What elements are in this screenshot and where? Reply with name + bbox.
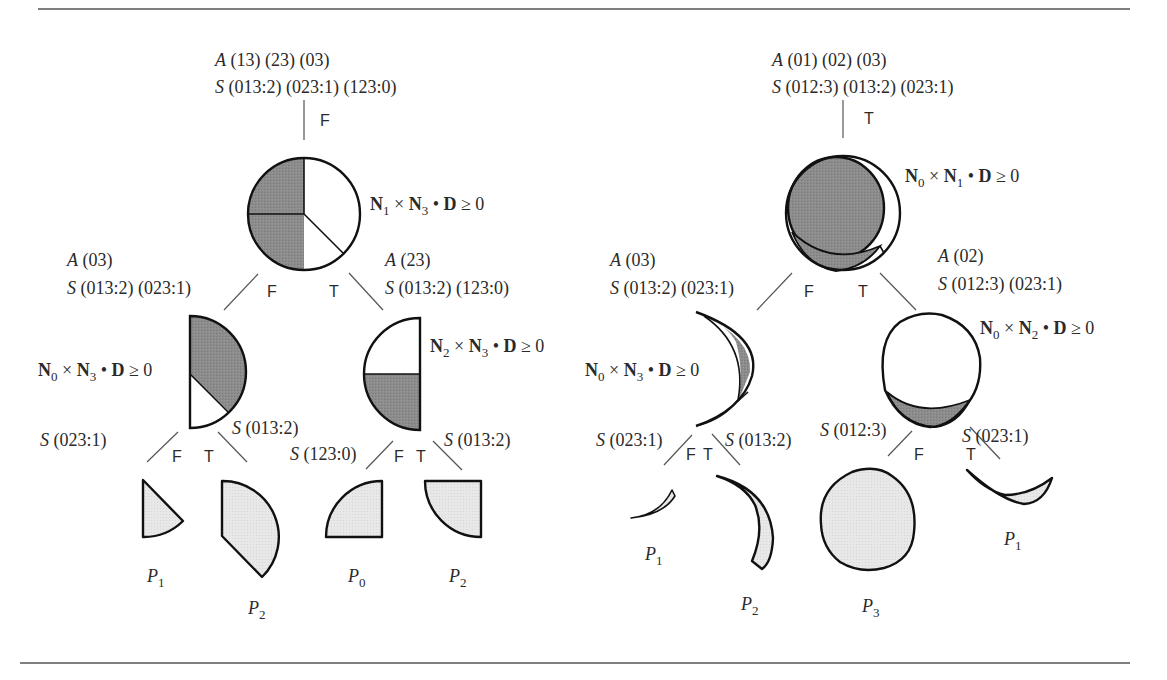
right-leaf-p1b-shape xyxy=(967,470,1052,504)
right-leaf-p3-label: P3 xyxy=(861,596,880,620)
left-node2l-t-label: T xyxy=(204,448,214,465)
left-node2r-f-s: S (123:0) xyxy=(290,444,357,465)
left-node2r-f-edge xyxy=(366,441,393,469)
right-node2r-f-s: S (012:3) xyxy=(820,420,887,441)
left-node2r-test: N2 × N3 • D ≥ 0 xyxy=(430,336,544,360)
right-node1-shape xyxy=(786,156,900,271)
left-leaf-p1-shape xyxy=(143,480,183,537)
left-leaf-p2b-shape xyxy=(425,481,481,537)
right-tree: A (01) (02) (03) S (012:3) (013:2) (023:… xyxy=(585,50,1094,620)
left-r-branch-a: A (23) xyxy=(384,250,431,271)
left-leaf-p2b-label: P2 xyxy=(448,566,467,590)
left-leaf-p2a-label: P2 xyxy=(247,598,266,622)
right-node1-t-edge xyxy=(880,273,916,310)
left-leaf-p2a-shape xyxy=(222,481,279,577)
left-tree: A (13) (23) (03) S (013:2) (023:1) (123:… xyxy=(38,50,544,622)
left-node2l-f-label: F xyxy=(172,448,182,465)
right-node2r-f-label: F xyxy=(914,446,924,463)
right-node2l-f-s: S (023:1) xyxy=(596,430,663,451)
bsp-tree-figure: A (13) (23) (03) S (013:2) (023:1) (123:… xyxy=(0,0,1167,680)
right-node2r-shape xyxy=(883,314,981,427)
right-node2r-t-s: S (023:1) xyxy=(962,426,1029,447)
left-leaf-p0-label: P0 xyxy=(347,566,366,590)
right-node2r-test: N0 × N2 • D ≥ 0 xyxy=(980,318,1094,342)
left-node2l-shape xyxy=(190,316,246,428)
right-node2l-crescent xyxy=(696,312,753,426)
right-node2r-t-label: T xyxy=(966,446,976,463)
left-root-a-line: A (13) (23) (03) xyxy=(214,50,329,71)
left-node2l-test: N0 × N3 • D ≥ 0 xyxy=(38,360,152,384)
right-root-branch-label: T xyxy=(864,110,874,127)
right-root-s-line: S (012:3) (013:2) (023:1) xyxy=(772,77,953,98)
right-r-branch-s: S (012:3) (023:1) xyxy=(938,274,1062,295)
right-l-branch-a: A (03) xyxy=(609,250,656,271)
left-leaf-p0-shape xyxy=(326,481,382,537)
left-node1-f-label: F xyxy=(267,283,277,300)
right-node2l-t-s: S (013:2) xyxy=(725,430,792,451)
right-l-branch-s: S (013:2) (023:1) xyxy=(610,278,734,299)
right-leaf-p3-shape xyxy=(821,469,915,570)
left-leaf-p1-label: P1 xyxy=(146,566,165,590)
right-node2l-test: N0 × N3 • D ≥ 0 xyxy=(585,360,699,384)
right-node1-f-edge xyxy=(757,273,792,310)
right-leaf-p1a-label: P1 xyxy=(644,544,663,568)
left-node2l-f-s: S (023:1) xyxy=(40,430,107,451)
left-node1-t-edge xyxy=(349,273,383,310)
right-node1-f-label: F xyxy=(804,283,814,300)
right-node1-t-label: T xyxy=(858,283,868,300)
left-root-s-line: S (013:2) (023:1) (123:0) xyxy=(215,77,396,98)
left-node1-test: N1 × N3 • D ≥ 0 xyxy=(370,194,484,218)
right-node2r-f-edge xyxy=(888,431,912,456)
left-node2r-t-s: S (013:2) xyxy=(444,430,511,451)
left-node1-t-label: T xyxy=(329,283,339,300)
right-node1-test: N0 × N1 • D ≥ 0 xyxy=(905,166,1019,190)
right-leaf-p1b-label: P1 xyxy=(1003,529,1022,553)
left-l-branch-a: A (03) xyxy=(66,250,113,271)
right-r-branch-a: A (02) xyxy=(937,246,984,267)
left-l-branch-s: S (013:2) (023:1) xyxy=(67,278,191,299)
left-node2l-t-s: S (013:2) xyxy=(232,418,299,439)
left-node2r-f-label: F xyxy=(394,448,404,465)
left-node1-circle xyxy=(248,158,360,270)
right-leaf-p2-label: P2 xyxy=(740,594,759,618)
left-node2r-t-label: T xyxy=(416,448,426,465)
left-r-branch-s: S (013:2) (123:0) xyxy=(385,278,509,299)
right-root-a-line: A (01) (02) (03) xyxy=(771,50,886,71)
left-node1-f-edge xyxy=(224,274,258,310)
right-node2l-t-label: T xyxy=(703,446,713,463)
right-leaf-p1a-shape xyxy=(631,490,675,518)
right-leaf-p2-shape xyxy=(717,476,773,569)
left-root-branch-label: F xyxy=(320,112,330,129)
left-node2r-shape xyxy=(364,318,420,430)
right-node2l-f-label: F xyxy=(686,446,696,463)
